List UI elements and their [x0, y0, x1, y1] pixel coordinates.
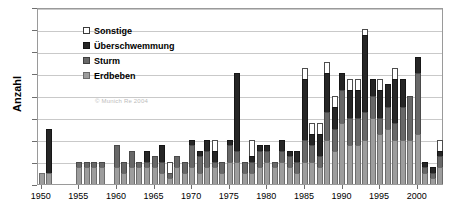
- bar-segment-erdbeben: [129, 167, 135, 184]
- bar-1962: [129, 151, 135, 184]
- bar-segment-erdbeben: [422, 173, 428, 184]
- bar-2003: [437, 140, 443, 184]
- bar-segment-sturm: [415, 73, 421, 134]
- bar-1969: [182, 162, 188, 184]
- bar-1977: [242, 162, 248, 184]
- bar-segment-berschwemmung: [204, 140, 210, 151]
- legend-swatch-sonstige-icon: [83, 27, 90, 34]
- x-axis-tick-label: 1955: [58, 191, 98, 201]
- bar-segment-erdbeben: [294, 173, 300, 184]
- bar-2002: [430, 167, 436, 184]
- bar-segment-berschwemmung: [392, 79, 398, 123]
- x-axis-tick-mark: [304, 185, 305, 189]
- bar-segment-sturm: [355, 118, 361, 146]
- x-axis-tick-label: 1960: [96, 191, 136, 201]
- bar-segment-sturm: [309, 145, 315, 162]
- legend-item-erdbeben: Erdbeben: [83, 68, 175, 83]
- bar-segment-erdbeben: [370, 118, 376, 184]
- bar-segment-sturm: [294, 162, 300, 173]
- bar-segment-sonstige: [324, 62, 330, 73]
- bar-segment-sonstige: [212, 140, 218, 151]
- bar-segment-erdbeben: [227, 162, 233, 184]
- bar-segment-sturm: [362, 112, 368, 140]
- legend-item-ueberschwemmung: Überschwemmung: [83, 38, 175, 53]
- bar-segment-erdbeben: [392, 140, 398, 184]
- bar-segment-sonstige: [347, 79, 353, 90]
- bar-1966: [159, 145, 165, 184]
- legend-label-sturm: Sturm: [94, 56, 120, 66]
- x-axis-tick-mark: [41, 185, 42, 189]
- x-axis-tick-label: 1950: [21, 191, 61, 201]
- bar-1965: [152, 156, 158, 184]
- bar-segment-erdbeben: [84, 167, 90, 184]
- bar-1950: [39, 173, 45, 184]
- bar-segment-sturm: [332, 129, 338, 151]
- bar-1975: [227, 140, 233, 184]
- bar-segment-erdbeben: [332, 151, 338, 184]
- bar-1991: [347, 79, 353, 184]
- bar-1984: [294, 151, 300, 184]
- bar-segment-erdbeben: [279, 162, 285, 184]
- bar-1964: [144, 151, 150, 184]
- x-axis-tick-mark: [116, 185, 117, 189]
- bar-segment-berschwemmung: [324, 73, 330, 112]
- bar-segment-berschwemmung: [347, 90, 353, 118]
- bar-1983: [287, 151, 293, 184]
- bar-segment-erdbeben: [377, 134, 383, 184]
- bar-segment-erdbeben: [287, 167, 293, 184]
- bar-segment-sturm: [234, 151, 240, 162]
- x-axis-tick-label: 1985: [284, 191, 324, 201]
- bar-segment-sturm: [197, 156, 203, 173]
- bar-1980: [264, 145, 270, 184]
- bar-1993: [362, 29, 368, 184]
- bar-segment-sonstige: [302, 68, 308, 79]
- bar-segment-erdbeben: [136, 167, 142, 184]
- y-axis-tick-mark: [32, 185, 37, 186]
- bar-1987: [317, 123, 323, 184]
- bar-segment-sturm: [347, 118, 353, 146]
- bar-segment-berschwemmung: [279, 140, 285, 151]
- bar-segment-sonstige: [317, 123, 323, 134]
- bar-segment-berschwemmung: [415, 57, 421, 74]
- bar-segment-sonstige: [332, 96, 338, 107]
- bar-segment-berschwemmung: [212, 151, 218, 162]
- bar-segment-erdbeben: [144, 167, 150, 184]
- x-axis-tick-label: 1965: [134, 191, 174, 201]
- legend-label-sonstige: Sonstige: [94, 26, 132, 36]
- bar-segment-erdbeben: [400, 140, 406, 184]
- bar-segment-erdbeben: [189, 167, 195, 184]
- bar-segment-erdbeben: [99, 167, 105, 184]
- bar-1974: [219, 162, 225, 184]
- bar-segment-sturm: [242, 162, 248, 173]
- bar-segment-erdbeben: [174, 167, 180, 184]
- bar-segment-sonstige: [392, 68, 398, 79]
- bar-segment-sturm: [377, 118, 383, 135]
- bar-segment-sonstige: [377, 79, 383, 90]
- bar-1970: [189, 140, 195, 184]
- bar-segment-erdbeben: [182, 173, 188, 184]
- bar-segment-erdbeben: [264, 162, 270, 184]
- watermark-label: © Munich Re 2004: [95, 98, 148, 104]
- bar-segment-sturm: [114, 145, 120, 167]
- legend-swatch-sturm-icon: [83, 57, 90, 64]
- bar-segment-sturm: [392, 123, 398, 140]
- bar-segment-erdbeben: [362, 140, 368, 184]
- bar-1973: [212, 140, 218, 184]
- bar-segment-erdbeben: [91, 167, 97, 184]
- bar-segment-sturm: [227, 145, 233, 162]
- bar-1978: [249, 140, 255, 184]
- x-axis-tick-label: 1975: [209, 191, 249, 201]
- bar-segment-erdbeben: [339, 123, 345, 184]
- bar-segment-erdbeben: [76, 167, 82, 184]
- bar-segment-erdbeben: [415, 134, 421, 184]
- bar-segment-sonstige: [309, 123, 315, 134]
- bar-segment-erdbeben: [430, 178, 436, 184]
- bar-1967: [167, 162, 173, 184]
- legend-item-sturm: Sturm: [83, 53, 175, 68]
- bar-segment-sturm: [174, 156, 180, 167]
- bar-segment-berschwemmung: [294, 151, 300, 162]
- y-axis-title: Anzahl: [11, 64, 23, 124]
- bar-segment-erdbeben: [167, 178, 173, 184]
- plot-area: © Munich Re 2004 Sonstige Überschwemmung…: [37, 8, 443, 185]
- bar-1997: [392, 68, 398, 184]
